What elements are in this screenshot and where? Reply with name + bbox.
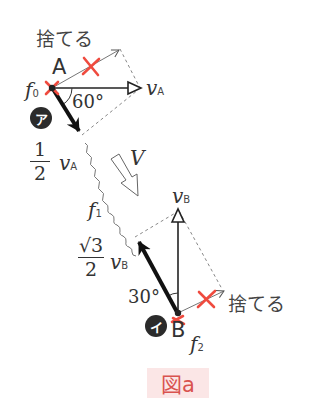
figure-caption: 図a bbox=[147, 368, 209, 398]
hollow-arrowhead-icon bbox=[172, 209, 184, 222]
angle-30-label: 30° bbox=[128, 288, 160, 306]
velocity-b-label: vB bbox=[172, 186, 190, 206]
discard-label-bottom: 捨てる bbox=[228, 295, 285, 314]
sqrt3-fraction: √3 2 bbox=[78, 236, 104, 279]
badge-b: イ bbox=[145, 315, 167, 337]
sqrt3-vb-label: vB bbox=[110, 252, 128, 272]
point-b-label: B bbox=[171, 320, 185, 341]
half-fraction: 1 2 bbox=[30, 140, 50, 183]
point-b-dot bbox=[175, 310, 181, 316]
photon-f0-label: f0 bbox=[25, 80, 39, 100]
dashed-guide bbox=[179, 211, 222, 289]
point-a-dot bbox=[49, 85, 55, 91]
photon-f2-label: f2 bbox=[190, 334, 204, 354]
photon-f1-label: f1 bbox=[88, 200, 102, 220]
velocity-a-label: vA bbox=[146, 78, 164, 98]
angle-60-label: 60° bbox=[72, 93, 104, 111]
point-a-label: A bbox=[52, 57, 66, 78]
discard-label-top: 捨てる bbox=[36, 30, 93, 49]
half-va-label: vA bbox=[59, 153, 77, 173]
badge-a: ア bbox=[30, 107, 52, 129]
diagram-canvas bbox=[0, 0, 311, 417]
dashed-guide bbox=[135, 212, 177, 237]
velocity-big-label: V bbox=[130, 148, 144, 168]
